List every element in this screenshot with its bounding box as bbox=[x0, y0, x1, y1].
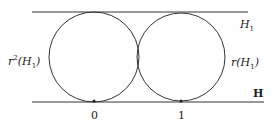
label-h1: H1 bbox=[240, 19, 254, 33]
r2-post: ) bbox=[36, 55, 40, 68]
right-circle bbox=[137, 13, 225, 101]
label-r2-h1: r2(H1) bbox=[8, 55, 40, 70]
left-circle bbox=[49, 12, 139, 102]
label-h1-base: H bbox=[240, 18, 250, 31]
r-post: ) bbox=[255, 56, 259, 69]
point-1 bbox=[180, 100, 183, 103]
r2-mid: (H bbox=[18, 55, 32, 68]
label-one: 1 bbox=[178, 110, 185, 121]
r-pre: r(H bbox=[231, 56, 250, 69]
label-r-h1: r(H1) bbox=[231, 57, 259, 71]
point-0 bbox=[93, 100, 96, 103]
label-h1-sub: 1 bbox=[250, 25, 254, 33]
label-blackboard-h: H bbox=[253, 88, 263, 99]
label-zero: 0 bbox=[91, 110, 98, 121]
